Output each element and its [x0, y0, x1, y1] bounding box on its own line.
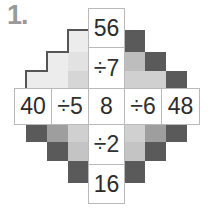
horizontal-cell-3: ÷6 — [124, 88, 162, 125]
vertical-cell-4: 16 — [88, 164, 125, 204]
horizontal-cell-4: 48 — [161, 88, 200, 125]
horizontal-cell-0: 40 — [14, 88, 52, 125]
horizontal-cell-1: ÷5 — [51, 88, 89, 125]
worksheet-problem: 1. 56 ÷7 40 ÷5 8 ÷6 48 ÷2 16 — [0, 0, 212, 212]
vertical-cell-0: 56 — [88, 8, 125, 48]
vertical-cell-3: ÷2 — [88, 124, 125, 165]
center-cell: 8 — [88, 88, 125, 125]
puzzle-grid: 56 ÷7 40 ÷5 8 ÷6 48 ÷2 16 — [0, 0, 212, 212]
vertical-cell-1: ÷7 — [88, 47, 125, 89]
